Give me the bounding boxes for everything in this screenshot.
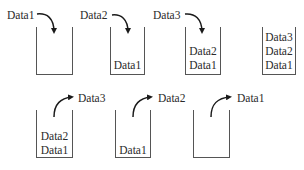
arrows-layer [0,0,304,170]
pop-arrow-icon [54,97,72,117]
push-arrow-icon [185,14,202,32]
pop-arrow-icon [133,97,151,117]
push-arrow-icon [37,14,54,32]
pop-arrow-icon [211,97,230,117]
push-arrow-icon [112,15,128,32]
